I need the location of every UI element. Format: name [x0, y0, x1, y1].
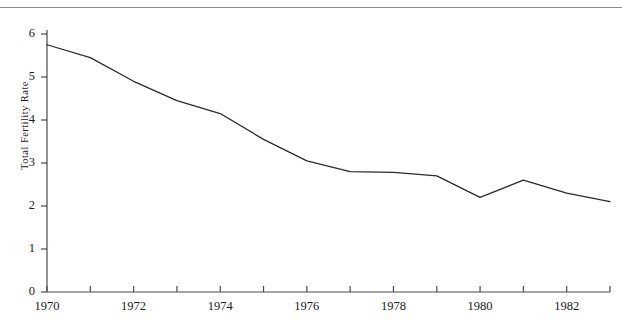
x-tick-label: 1982 — [537, 299, 597, 314]
y-tick-marks — [41, 34, 47, 292]
y-tick-label: 3 — [13, 155, 35, 170]
plot-area: 0123456 1970197219741976197819801982 — [0, 0, 622, 326]
x-tick-label: 1972 — [104, 299, 164, 314]
y-tick-label: 4 — [13, 112, 35, 127]
y-tick-label: 1 — [13, 241, 35, 256]
x-tick-label: 1980 — [450, 299, 510, 314]
y-tick-label: 5 — [13, 69, 35, 84]
axes-group — [47, 30, 610, 292]
figure-container: Total Fertility Rate 0123456 19701972197… — [0, 0, 622, 326]
x-tick-label: 1976 — [277, 299, 337, 314]
x-tick-label: 1978 — [363, 299, 423, 314]
x-tick-label: 1974 — [190, 299, 250, 314]
x-tick-label: 1970 — [17, 299, 77, 314]
fertility-rate-line — [47, 45, 610, 202]
y-tick-label: 6 — [13, 26, 35, 41]
chart-svg — [0, 0, 622, 326]
x-tick-marks — [47, 286, 610, 292]
y-tick-label: 0 — [13, 284, 35, 299]
y-tick-label: 2 — [13, 198, 35, 213]
